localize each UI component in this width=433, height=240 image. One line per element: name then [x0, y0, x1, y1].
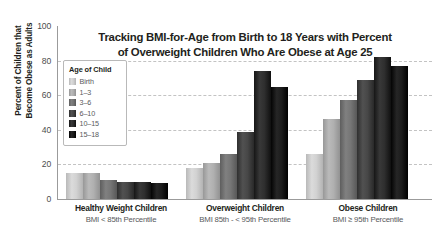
legend-swatch-3-6: [69, 99, 76, 106]
y-tick-100: 100: [25, 21, 51, 31]
legend-label-birth: Birth: [80, 77, 94, 86]
x-label-obese: Obese Children BMI ≥ 95th Percentile: [305, 203, 431, 224]
legend-label-10-15: 10–15: [80, 119, 100, 128]
plot-area: Tracking BMI-for-Age from Birth to 18 Ye…: [57, 26, 432, 200]
legend-swatch-birth: [69, 78, 76, 85]
y-tick-80: 80: [25, 56, 51, 66]
bar-overweight-10-15: [254, 71, 271, 199]
bar-obese-10-15: [374, 57, 391, 199]
legend-label-3-6: 3–6: [80, 98, 92, 107]
legend-item-1-3[interactable]: 1–3: [69, 88, 121, 97]
y-axis-title-line2: Become Obese as Adults: [24, 23, 33, 119]
y-tick-60: 60: [25, 90, 51, 100]
x-label-healthy-weight: Healthy Weight Children BMI < 85th Perce…: [57, 203, 185, 224]
legend-item-3-6[interactable]: 3–6: [69, 98, 121, 107]
y-tick-0: 0: [25, 194, 51, 204]
x-label-overweight: Overweight Children BMI 85th - < 95th Pe…: [177, 203, 313, 224]
legend-item-10-15[interactable]: 10–15: [69, 119, 121, 128]
legend-label-6-10: 6–10: [80, 109, 96, 118]
bar-healthy-1-3: [83, 173, 100, 199]
bar-healthy-15-18: [151, 183, 168, 199]
legend-item-6-10[interactable]: 6–10: [69, 109, 121, 118]
bar-overweight-6-10: [237, 132, 254, 199]
legend-item-15-18[interactable]: 15–18: [69, 130, 121, 139]
x-label-overweight-title: Overweight Children: [177, 203, 313, 213]
bar-healthy-birth: [66, 173, 83, 199]
x-label-obese-sub: BMI ≥ 95th Percentile: [305, 215, 431, 224]
legend-swatch-6-10: [69, 110, 76, 117]
bar-obese-15-18: [391, 66, 408, 199]
bar-obese-3-6: [340, 100, 357, 199]
y-tick-40: 40: [25, 125, 51, 135]
legend-swatch-15-18: [69, 131, 76, 138]
bar-healthy-10-15: [134, 182, 151, 199]
legend-label-15-18: 15–18: [80, 130, 100, 139]
x-label-obese-title: Obese Children: [305, 203, 431, 213]
legend-item-birth[interactable]: Birth: [69, 77, 121, 86]
bar-obese-birth: [306, 154, 323, 199]
chart-root: Percent of Children that Become Obese as…: [0, 0, 433, 240]
legend-label-1-3: 1–3: [80, 88, 92, 97]
bar-overweight-15-18: [271, 87, 288, 199]
bar-group-overweight: [186, 26, 298, 199]
legend-swatch-1-3: [69, 89, 76, 96]
legend-title: Age of Child: [69, 65, 121, 74]
bar-overweight-birth: [186, 168, 203, 199]
bar-overweight-1-3: [203, 163, 220, 199]
x-label-overweight-sub: BMI 85th - < 95th Percentile: [177, 215, 313, 224]
x-label-healthy-weight-title: Healthy Weight Children: [57, 203, 185, 213]
bar-obese-1-3: [323, 119, 340, 199]
y-axis-title-line1: Percent of Children that: [14, 25, 23, 115]
bar-group-obese: [306, 26, 418, 199]
legend-swatch-10-15: [69, 120, 76, 127]
bar-healthy-3-6: [100, 180, 117, 199]
legend: Age of Child Birth 1–3 3–6 6–10 10–15: [63, 60, 127, 146]
y-tick-20: 20: [25, 159, 51, 169]
bar-obese-6-10: [357, 80, 374, 199]
x-label-healthy-weight-sub: BMI < 85th Percentile: [57, 215, 185, 224]
bar-healthy-6-10: [117, 182, 134, 199]
bar-overweight-3-6: [220, 154, 237, 199]
